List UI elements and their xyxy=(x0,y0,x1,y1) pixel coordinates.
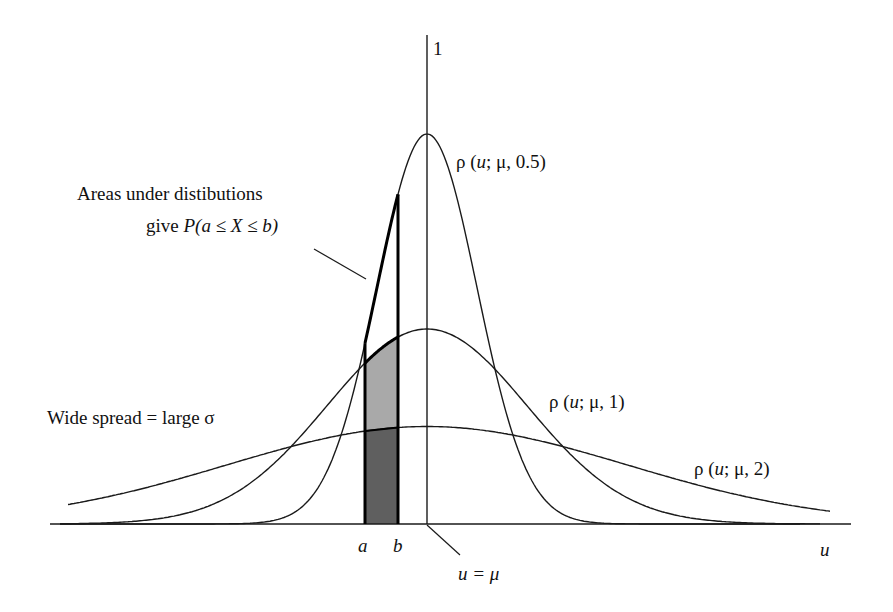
areas-leader-line xyxy=(314,249,366,279)
mean-label: u = μ xyxy=(458,563,499,584)
shaded-area-medium xyxy=(365,337,398,431)
areas-annotation-line1: Areas under distibutions xyxy=(77,183,263,204)
area-outline-narrow xyxy=(365,194,398,363)
label-curve-narrow: ρ (u; μ, 0.5) xyxy=(456,151,546,173)
label-curve-medium: ρ (u; μ, 1) xyxy=(549,391,625,413)
label-curve-wide: ρ (u; μ, 2) xyxy=(694,458,770,480)
normal-distribution-diagram: 1 ρ (u; μ, 0.5) ρ (u; μ, 1) ρ (u; μ, 2) … xyxy=(0,0,893,612)
x-axis-label: u xyxy=(820,539,830,560)
mean-leader-line xyxy=(427,525,460,555)
a-label: a xyxy=(358,535,368,556)
b-label: b xyxy=(393,535,403,556)
wide-spread-annotation: Wide spread = large σ xyxy=(47,407,215,428)
areas-annotation-line2: give P(a ≤ X ≤ b) xyxy=(146,215,278,237)
shaded-area-wide xyxy=(365,428,398,525)
y-top-label: 1 xyxy=(433,38,443,59)
